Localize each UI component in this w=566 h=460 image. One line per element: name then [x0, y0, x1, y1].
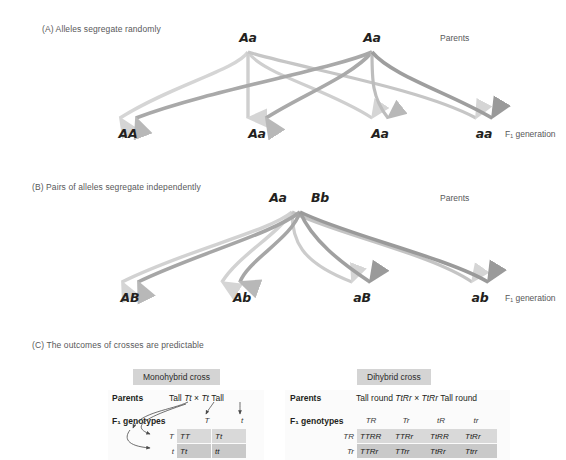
- dihybrid-parents-line: Tall round TtRr × TtRr Tall round: [356, 393, 477, 403]
- dihybrid-col-header-3: tR: [437, 416, 445, 425]
- dihybrid-parents-label-text: Parents: [290, 393, 321, 403]
- monohybrid-cell-1-1: TT: [177, 429, 211, 443]
- panel-b-offspring-1: AB: [121, 290, 140, 305]
- panel-a-offspring-3: Aa: [371, 126, 389, 141]
- dihybrid-cell-1-2: TTRr: [392, 429, 427, 443]
- panel-a-offspring-4: aa: [476, 126, 492, 141]
- panel-b-offspring-2: Ab: [233, 290, 251, 305]
- panel-b-offspring-3: aB: [353, 290, 371, 305]
- monohybrid-col-header-1: T: [205, 416, 210, 425]
- panel-b-parent-2: Bb: [311, 190, 329, 205]
- dihybrid-cell-1-1: TTRR: [357, 429, 392, 443]
- monohybrid-col-header-2: t: [241, 416, 243, 425]
- panel-b-parents-label: Parents: [440, 193, 469, 203]
- dihybrid-genotypes-label-text: F₁ genotypes: [290, 416, 344, 426]
- panel-a-parents-label: Parents: [440, 33, 469, 43]
- dihybrid-cell-1-3: TtRR: [427, 429, 462, 443]
- dihybrid-row-header-2: Tr: [336, 447, 354, 456]
- dihybrid-col-header-4: tr: [474, 416, 479, 425]
- dihybrid-cell-2-3: TtRr: [427, 444, 462, 458]
- dihybrid-parents-label: Parents: [290, 393, 321, 403]
- monohybrid-cell-2-2: tt: [212, 444, 246, 458]
- dihybrid-cell-2-4: Ttrr: [462, 444, 497, 458]
- panel-b: (B) Pairs of alleles segregate independe…: [0, 170, 566, 330]
- dihybrid-chip: Dihybrid cross: [357, 369, 431, 385]
- panel-b-offspring-4: ab: [472, 290, 489, 305]
- panel-a-parent-2: Aa: [363, 30, 381, 45]
- dihybrid-genotypes-label: F₁ genotypes: [290, 416, 344, 426]
- dihybrid-parent-right-geno: TtRr: [421, 393, 438, 403]
- monohybrid-cell-1-2: Tt: [212, 429, 246, 443]
- panel-a-arrows: [0, 0, 566, 170]
- monohybrid-cell-2-1: Tt: [177, 444, 211, 458]
- panel-b-parent-1: Aa: [269, 190, 287, 205]
- dihybrid-col-header-1: TR: [366, 416, 377, 425]
- panel-a: (A) Alleles segregate randomly: [0, 0, 566, 170]
- dihybrid-parent-right-pheno: Tall round: [440, 393, 477, 403]
- dihybrid-parent-left-pheno: Tall round: [356, 393, 393, 403]
- dihybrid-cell-2-2: TTrr: [392, 444, 427, 458]
- monohybrid-row-header-1: T: [160, 432, 174, 441]
- panel-a-parent-1: Aa: [239, 30, 257, 45]
- dihybrid-cell-2-1: TTRr: [357, 444, 392, 458]
- dihybrid-row-header-1: TR: [336, 432, 354, 441]
- panel-c: (C) The outcomes of crosses are predicta…: [0, 330, 566, 460]
- dihybrid-parent-left-geno: TtRr: [395, 393, 412, 403]
- panel-a-offspring-1: AA: [119, 126, 138, 141]
- dihybrid-cross-symbol-icon: ×: [414, 393, 419, 403]
- panel-a-offspring-2: Aa: [248, 126, 266, 141]
- panel-a-f1-label: F₁ generation: [505, 129, 556, 139]
- panel-b-f1-label: F₁ generation: [505, 293, 556, 303]
- dihybrid-col-header-2: Tr: [403, 416, 410, 425]
- monohybrid-row-header-2: t: [160, 447, 174, 456]
- dihybrid-cell-1-4: TtRr: [462, 429, 497, 443]
